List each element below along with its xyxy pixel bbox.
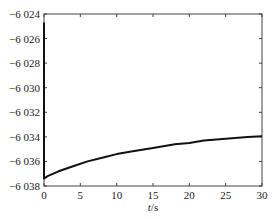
x-tick-label: 30 (257, 189, 269, 201)
y-tick-label: −6 026 (9, 33, 40, 45)
x-tick-label: 0 (41, 189, 47, 201)
y-tick-label: −6 034 (9, 131, 40, 143)
y-tick-label: −6 028 (9, 57, 40, 69)
plot-border (44, 14, 262, 186)
plot-frame (44, 14, 262, 186)
x-tick-label: 20 (184, 189, 196, 201)
x-tick-label: 15 (148, 189, 160, 201)
y-tick-label: −6 036 (9, 155, 40, 167)
y-axis: −6 024−6 026−6 028−6 030−6 032−6 034−6 0… (9, 8, 262, 192)
data-series (44, 23, 262, 179)
x-tick-label: 5 (78, 189, 84, 201)
x-axis: 051015202530 (41, 14, 268, 201)
y-tick-label: −6 024 (9, 8, 40, 20)
x-axis-label: t/s (148, 201, 158, 213)
y-tick-label: −6 030 (9, 82, 40, 94)
y-tick-label: −6 038 (9, 180, 40, 192)
x-tick-label: 10 (111, 189, 123, 201)
y-tick-label: −6 032 (9, 106, 40, 118)
line-chart: −6 024−6 026−6 028−6 030−6 032−6 034−6 0… (0, 0, 272, 219)
x-tick-label: 25 (220, 189, 232, 201)
series-line (44, 23, 262, 179)
